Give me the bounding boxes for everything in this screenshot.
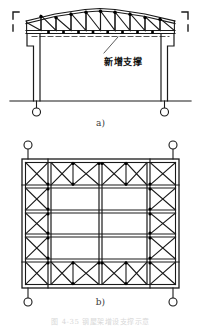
- plan-band-lines: [22, 185, 179, 262]
- plan-vertical-band-lines: [48, 159, 150, 288]
- plan-right-band-bracing: [150, 188, 176, 259]
- plan-left-band-bracing: [26, 188, 49, 259]
- subfigure-b-caption: b): [0, 297, 201, 307]
- engineering-drawing: 新增支撑 a): [0, 0, 201, 330]
- subfigure-b-plan: [0, 0, 201, 330]
- plan-outer-frame: [22, 159, 179, 288]
- figure-title-caption: 图 4-35 钢屋架增设支撑示意: [0, 316, 201, 326]
